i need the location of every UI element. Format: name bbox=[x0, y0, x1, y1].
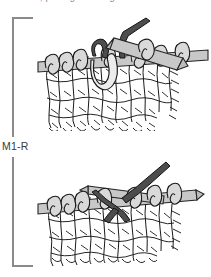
bracket-lower-arm bbox=[13, 157, 33, 266]
illustration-step-1 bbox=[36, 16, 211, 131]
bracket-upper-arm bbox=[13, 18, 33, 137]
bracket-label-m1r: M1-R bbox=[2, 140, 28, 152]
illustration-step-2 bbox=[36, 146, 211, 268]
diagram-page: stitches, pulling it through from back t… bbox=[0, 0, 211, 277]
